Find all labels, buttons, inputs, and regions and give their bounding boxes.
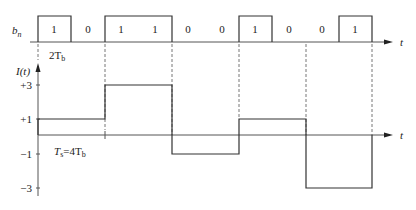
y-axis-label: I(t)	[15, 65, 30, 78]
bn-label: bn	[12, 24, 22, 39]
y-tick-labels: +3 +1 −1 −3	[20, 79, 32, 194]
symbol-boundaries	[38, 44, 372, 135]
bit-period-label: 2Tb	[49, 49, 65, 63]
bit-value: 1	[352, 23, 358, 35]
y-ticks	[36, 85, 105, 188]
x-axis-t-label: t	[400, 129, 404, 141]
bit-value: 0	[319, 23, 325, 35]
bit-value: 0	[85, 23, 91, 35]
bit-value: 1	[252, 23, 258, 35]
y-tick-label: −1	[20, 148, 32, 160]
x-axis-arrow-icon	[384, 133, 393, 138]
pam-waveform	[38, 85, 372, 188]
bit-value: 1	[118, 23, 124, 35]
bit-value: 0	[286, 23, 292, 35]
bit-axis-t-label: t	[400, 36, 404, 48]
bit-value: 0	[185, 23, 191, 35]
y-tick-label: +3	[20, 79, 32, 91]
pam-diagram: bn t 1 0 1 1 0 0 1 0 0 1 2Tb I(t) t	[0, 0, 416, 210]
symbol-period-label: Ts=4Tb	[54, 145, 86, 159]
bit-axis-arrow-icon	[384, 40, 393, 45]
bit-value: 1	[51, 23, 57, 35]
bit-pulse	[105, 16, 172, 42]
y-tick-label: +1	[20, 113, 32, 125]
y-tick-label: −3	[20, 182, 32, 194]
y-axis-arrow-icon	[36, 63, 41, 72]
bit-value: 1	[152, 23, 158, 35]
bit-value: 0	[219, 23, 225, 35]
bit-values: 1 0 1 1 0 0 1 0 0 1	[51, 23, 358, 35]
